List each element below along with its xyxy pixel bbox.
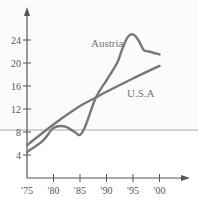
x-axis-ticks: '75'80'85'90'95'00 [21, 174, 165, 196]
y-tick-label: 16 [11, 81, 21, 92]
x-tick-label: '80 [48, 185, 60, 196]
x-tick-label: '90 [101, 185, 113, 196]
series-label-usa: U.S.A [127, 87, 155, 99]
x-axis-arrow-icon [181, 175, 190, 181]
y-tick-label: 12 [11, 104, 21, 115]
axes [24, 7, 190, 181]
y-tick-label: 20 [11, 58, 21, 69]
x-tick-label: '75 [21, 185, 33, 196]
y-tick-label: 4 [16, 150, 21, 161]
y-axis-arrow-icon [24, 7, 30, 16]
y-tick-label: 8 [16, 127, 21, 138]
y-tick-label: 24 [11, 35, 21, 46]
series-label-austria: Austria [91, 37, 124, 49]
x-tick-label: '95 [127, 185, 139, 196]
line-chart: '75'80'85'90'95'00 4812162024 Austria U.… [0, 0, 198, 203]
x-tick-label: '00 [154, 185, 166, 196]
x-tick-label: '85 [74, 185, 86, 196]
y-axis-ticks: 4812162024 [11, 35, 31, 161]
